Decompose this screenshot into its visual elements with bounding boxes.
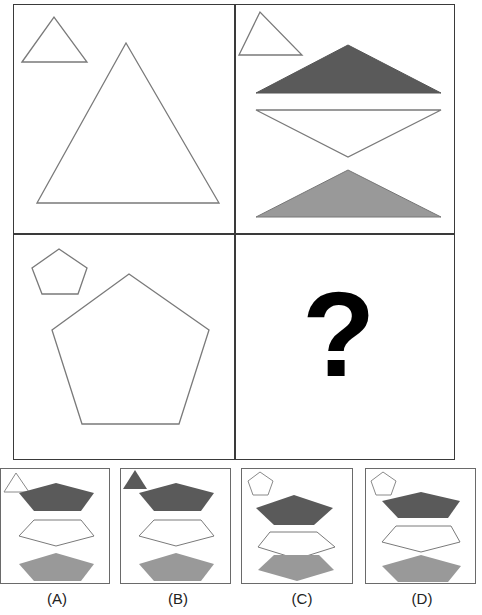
question-mark: ? — [302, 274, 375, 394]
dark-hexagon — [256, 495, 333, 525]
gray-pentagon — [19, 553, 94, 581]
white-hexagon — [258, 532, 335, 559]
pentagons-small-large — [14, 234, 234, 460]
triangles-small-large — [14, 5, 234, 233]
small-pentagon-outline — [32, 249, 87, 294]
small-triangle-outline — [239, 12, 302, 55]
large-triangle-outline — [37, 43, 219, 203]
puzzle-grid: ? — [13, 4, 455, 460]
white-inverted-flat-triangle — [256, 110, 441, 157]
cell-top-left — [14, 5, 234, 233]
option-d-figure — [366, 469, 477, 585]
cell-bottom-right: ? — [235, 234, 455, 460]
small-triangle-outline — [4, 473, 29, 492]
option-c-label: (C) — [282, 590, 322, 607]
gray-flat-triangle — [256, 170, 441, 217]
option-b-label: (B) — [158, 590, 198, 607]
large-pentagon-outline — [52, 274, 209, 424]
small-triangle-dark — [123, 470, 147, 489]
dark-pentagon — [139, 483, 214, 511]
option-d[interactable] — [365, 468, 476, 584]
gray-pentagon — [139, 553, 214, 581]
option-a-figure — [1, 469, 111, 585]
option-a[interactable] — [0, 468, 110, 584]
option-d-label: (D) — [402, 590, 442, 607]
cell-bottom-left — [14, 234, 234, 460]
dark-pentagon — [19, 483, 94, 511]
triangles-stack — [235, 5, 455, 233]
option-b[interactable] — [120, 468, 231, 584]
gray-pentagon — [382, 555, 461, 582]
white-pentagon — [19, 520, 94, 546]
white-pentagon — [382, 526, 460, 552]
option-b-figure — [121, 469, 232, 585]
small-pentagon-outline — [371, 472, 396, 495]
option-a-label: (A) — [37, 590, 77, 607]
option-c[interactable] — [241, 468, 353, 584]
gray-hexagon — [258, 555, 334, 581]
small-triangle-outline — [22, 17, 87, 62]
option-c-figure — [242, 469, 354, 585]
cell-top-right — [235, 5, 455, 233]
small-pentagon-outline — [248, 472, 273, 495]
dark-pentagon — [382, 492, 460, 518]
white-pentagon — [139, 520, 214, 546]
